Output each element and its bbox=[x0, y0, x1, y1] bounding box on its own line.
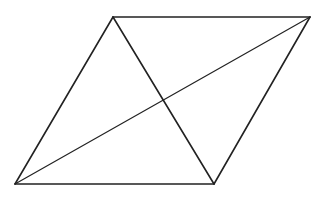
left-edge bbox=[15, 17, 113, 184]
right-edge bbox=[214, 17, 310, 184]
diagonals bbox=[15, 17, 310, 184]
diagonal-long bbox=[15, 17, 310, 184]
parallelogram-diagram bbox=[0, 0, 325, 203]
